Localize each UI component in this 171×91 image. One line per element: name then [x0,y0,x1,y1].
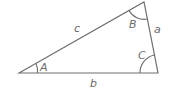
side-c-label: c [74,22,80,35]
side-a-label: a [154,23,161,36]
triangle-diagram: A B C c a b [0,0,171,91]
side-b-label: b [90,77,97,90]
angle-a-arc [36,64,38,74]
angle-c-label: C [138,49,146,62]
angle-a-label: A [39,61,48,74]
angle-b-label: B [129,18,137,31]
